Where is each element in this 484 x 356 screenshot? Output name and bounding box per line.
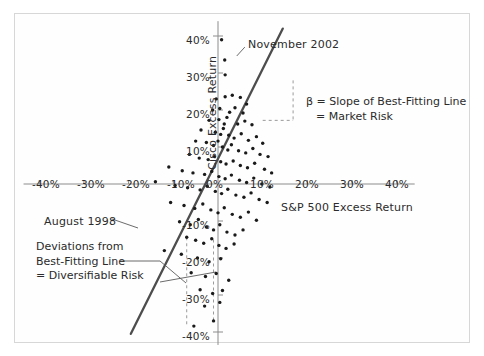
data-point [227,133,230,136]
data-point [251,147,254,150]
data-point [241,111,244,114]
data-point [223,73,226,76]
data-point [228,111,231,114]
data-point [223,206,226,209]
data-point [219,257,222,260]
data-point [242,196,245,199]
data-point [244,151,247,154]
x-tick-label-9: 40% [385,178,409,190]
data-point [255,135,258,138]
data-point [266,155,269,158]
x-tick-label-1: -40% [32,178,60,190]
data-point [226,148,229,151]
data-point [185,236,188,239]
figure-container: Cisco Excess Return S&P 500 Excess Retur… [0,0,484,356]
data-point [246,166,249,169]
x-axis-label: S&P 500 Excess Return [281,201,413,214]
y-tick-label-8: -30% [182,293,210,305]
data-point [193,207,196,210]
data-point [211,292,214,295]
data-point [182,204,185,207]
data-point [220,38,223,41]
data-point [247,210,250,213]
y-tick-label-2: 30% [186,71,210,83]
data-point [270,171,273,174]
data-point [247,139,250,142]
data-point [241,228,244,231]
annotation-diversifiable-risk: Deviations from Best-Fitting Line = Dive… [36,240,144,284]
data-point [230,173,233,176]
data-point [154,180,157,183]
data-point [231,213,234,216]
y-tick-label-7: -20% [182,256,210,268]
data-point [219,133,222,136]
data-point [223,177,226,180]
data-point [224,162,227,165]
x-tick-label-8: 30% [340,178,364,190]
y-tick-label-9: -40% [182,330,210,342]
data-point [233,106,236,109]
data-point [167,165,170,168]
data-point [181,169,184,172]
data-point [249,191,252,194]
y-tick-label-6: -10% [182,219,210,231]
data-point [212,319,215,322]
annotation-august-1998: August 1998 [44,215,116,228]
data-point [222,127,225,130]
beta-definition-line-2: = Market Risk [306,110,466,125]
y-tick-label-4: 10% [186,145,210,157]
data-point [212,228,215,231]
data-point [198,188,201,191]
data-point [250,123,253,126]
diversifiable-risk-line-1: Deviations from [36,240,144,255]
data-point [231,94,234,97]
data-point [226,187,229,190]
data-point [169,201,172,204]
y-tick-label-1: 40% [186,34,210,46]
data-point [258,153,261,156]
data-point [217,244,220,247]
data-point [225,230,228,233]
x-tick-label-4: -10% [167,178,195,190]
data-point [223,95,226,98]
data-point [198,288,201,291]
data-point [214,190,217,193]
scatter-plot-canvas [0,0,484,356]
data-point [221,145,224,148]
data-point [263,168,266,171]
data-point [194,239,197,242]
data-point [219,160,222,163]
data-point [245,102,248,105]
data-point [233,233,236,236]
data-point [194,139,197,142]
x-tick-label-6: 10% [250,178,274,190]
data-point [225,116,228,119]
data-point [199,128,202,131]
data-point [163,249,166,252]
data-point [223,122,226,125]
data-point [220,192,223,195]
annotation-november-2002: November 2002 [248,38,339,51]
data-point [239,216,242,219]
data-point [236,122,239,125]
data-point [210,237,213,240]
x-tick-label-2: -30% [77,178,105,190]
x-tick-label-3: -20% [122,178,150,190]
x-tick-label-5: 0% [206,178,223,190]
data-point [238,179,241,182]
data-point [191,171,194,174]
data-point [221,289,224,292]
data-point [218,301,221,304]
data-point [243,119,246,122]
data-point [209,208,212,211]
data-point [215,272,218,275]
data-point [227,279,230,282]
data-point [178,220,181,223]
data-point [245,181,248,184]
data-point [232,242,235,245]
data-point [261,142,264,145]
beta-definition-line-1: β = Slope of Best-Fitting Line [306,95,466,110]
data-point [232,159,235,162]
data-point [204,275,207,278]
y-tick-label-3: 20% [186,108,210,120]
